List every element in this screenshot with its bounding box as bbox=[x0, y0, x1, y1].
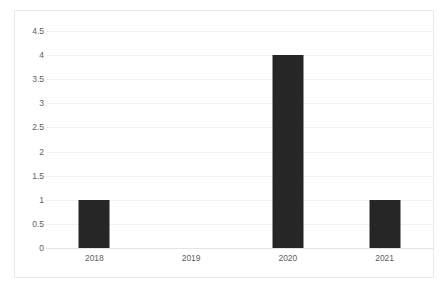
plot-area bbox=[46, 31, 433, 248]
x-axis-tick-labels: 2018201920202021 bbox=[46, 252, 433, 266]
y-axis-tick-label: 4 bbox=[10, 51, 44, 60]
bar-slot bbox=[143, 31, 240, 248]
bar[interactable] bbox=[79, 200, 110, 248]
bar-slot bbox=[240, 31, 337, 248]
gridline bbox=[46, 248, 433, 249]
y-axis-tick-label: 4.5 bbox=[10, 27, 44, 36]
x-axis-tick-label: 2019 bbox=[182, 252, 201, 264]
y-axis-tick-label: 3 bbox=[10, 99, 44, 108]
bar[interactable] bbox=[272, 55, 303, 248]
x-axis-tick-label: 2020 bbox=[278, 252, 297, 264]
y-axis-tick-label: 0.5 bbox=[10, 220, 44, 229]
y-axis-tick-label: 3.5 bbox=[10, 75, 44, 84]
y-axis-tick-label: 2.5 bbox=[10, 123, 44, 132]
bar-slot bbox=[46, 31, 143, 248]
chart-frame: 00.511.522.533.544.5 2018201920202021 bbox=[14, 10, 434, 278]
y-axis-tick-label: 2 bbox=[10, 147, 44, 156]
bar-slot bbox=[336, 31, 433, 248]
x-axis-tick-label: 2018 bbox=[85, 252, 104, 264]
bar[interactable] bbox=[369, 200, 400, 248]
y-axis-tick-label: 1 bbox=[10, 196, 44, 205]
x-axis-tick-label: 2021 bbox=[375, 252, 394, 264]
bar-series bbox=[46, 31, 433, 248]
y-axis-tick-labels: 00.511.522.533.544.5 bbox=[15, 31, 44, 248]
y-axis-tick-label: 1.5 bbox=[10, 171, 44, 180]
y-axis-tick-label: 0 bbox=[10, 244, 44, 253]
